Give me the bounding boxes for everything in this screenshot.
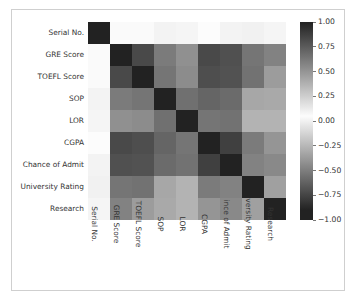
heatmap-cell [176, 132, 198, 154]
heatmap-cell [264, 66, 286, 88]
heatmap-cell [110, 132, 132, 154]
x-tick-label: TOEFL Score [134, 201, 143, 247]
heatmap-cell [154, 44, 176, 66]
x-tick-label: GRE Score [112, 205, 121, 244]
x-tick-label-wrapper: SOP [154, 220, 176, 304]
heatmap-cell [132, 88, 154, 110]
x-tick-label: SOP [156, 217, 165, 232]
colorbar-tick-text: 1.00 [318, 17, 335, 27]
y-tick-label: CGPA [0, 132, 84, 154]
heatmap-cell [88, 22, 110, 44]
heatmap-cell [198, 132, 220, 154]
heatmap-cell [176, 22, 198, 44]
x-tick-label-wrapper: Research [264, 220, 286, 304]
heatmap-cell [88, 132, 110, 154]
x-tick-label: LOR [178, 217, 187, 232]
colorbar-tick-text: −0.25 [318, 141, 341, 151]
heatmap-cell [264, 132, 286, 154]
heatmap-cell [264, 176, 286, 198]
heatmap-cell [88, 176, 110, 198]
colorbar-tick-mark [313, 96, 316, 97]
x-tick-label-wrapper: versity Rating [242, 220, 264, 304]
y-tick-label: SOP [0, 88, 84, 110]
heatmap-cell [154, 132, 176, 154]
correlation-heatmap-figure: Serial No.GRE ScoreTOEFL ScoreSOPLORCGPA… [0, 0, 356, 304]
heatmap-cell [242, 66, 264, 88]
colorbar-tick-text: −0.75 [318, 190, 341, 200]
colorbar-tick-labels: 1.000.750.500.250.00−0.25−0.50−0.75−1.00 [313, 22, 355, 220]
heatmap-cell [154, 110, 176, 132]
heatmap-cell [154, 66, 176, 88]
y-tick-label: TOEFL Score [0, 66, 84, 88]
heatmap-cell [264, 44, 286, 66]
heatmap-cell [220, 154, 242, 176]
heatmap-cell [110, 154, 132, 176]
x-tick-label: Research [266, 207, 275, 241]
colorbar-tick-text: 0.25 [318, 91, 335, 101]
x-tick-label: CGPA [200, 214, 209, 234]
heatmap-cell [132, 110, 154, 132]
heatmap-cell [154, 176, 176, 198]
y-tick-label: Chance of Admit [0, 154, 84, 176]
heatmap-cell [176, 44, 198, 66]
heatmap-cell [198, 44, 220, 66]
heatmap-cell [198, 22, 220, 44]
heatmap-cell [154, 88, 176, 110]
heatmap-grid [88, 22, 286, 220]
heatmap-cell [154, 22, 176, 44]
heatmap-cell [132, 22, 154, 44]
heatmap-cell [242, 110, 264, 132]
heatmap-cell [132, 154, 154, 176]
heatmap-cell [110, 66, 132, 88]
heatmap-cell [88, 44, 110, 66]
heatmap-cell [110, 44, 132, 66]
y-tick-label: GRE Score [0, 44, 84, 66]
colorbar-tick-mark [313, 46, 316, 47]
heatmap-cell [198, 110, 220, 132]
heatmap-cell [176, 66, 198, 88]
heatmap-cell [220, 110, 242, 132]
colorbar [300, 22, 313, 220]
x-tick-label: versity Rating [244, 198, 253, 249]
heatmap-cell [88, 66, 110, 88]
heatmap-cell [88, 110, 110, 132]
heatmap-cell [264, 110, 286, 132]
heatmap-cell [198, 154, 220, 176]
colorbar-tick-mark [313, 121, 316, 122]
heatmap-cell [198, 66, 220, 88]
heatmap-cell [176, 176, 198, 198]
heatmap-cell [220, 66, 242, 88]
heatmap-cell [264, 88, 286, 110]
y-tick-label: University Rating [0, 176, 84, 198]
x-tick-label-wrapper: CGPA [198, 220, 220, 304]
heatmap-cell [110, 22, 132, 44]
x-tick-label-wrapper: LOR [176, 220, 198, 304]
heatmap-cell [132, 44, 154, 66]
heatmap-cell [220, 88, 242, 110]
y-axis-tick-labels: Serial No.GRE ScoreTOEFL ScoreSOPLORCGPA… [0, 22, 84, 220]
heatmap-cell [242, 132, 264, 154]
heatmap-cell [88, 88, 110, 110]
heatmap-cell [264, 154, 286, 176]
heatmap-cell [220, 44, 242, 66]
colorbar-gradient [300, 22, 313, 220]
x-tick-label-wrapper: GRE Score [110, 220, 132, 304]
heatmap-cell [242, 176, 264, 198]
heatmap-cell [110, 88, 132, 110]
y-tick-label: Serial No. [0, 22, 84, 44]
heatmap-cell [220, 132, 242, 154]
heatmap-cell [110, 176, 132, 198]
colorbar-tick-text: −1.00 [318, 215, 341, 225]
x-tick-label-wrapper: ince of Admit [220, 220, 242, 304]
x-tick-label-wrapper: Serial No. [88, 220, 110, 304]
colorbar-tick-mark [313, 22, 316, 23]
heatmap-cell [242, 88, 264, 110]
heatmap-cell [176, 110, 198, 132]
heatmap-cell [88, 154, 110, 176]
colorbar-tick-mark [313, 71, 316, 72]
x-axis-tick-labels: Serial No.GRE ScoreTOEFL ScoreSOPLORCGPA… [88, 220, 286, 304]
colorbar-tick-mark [313, 170, 316, 171]
heatmap-cell [220, 22, 242, 44]
y-tick-label: LOR [0, 110, 84, 132]
heatmap-cell [242, 44, 264, 66]
